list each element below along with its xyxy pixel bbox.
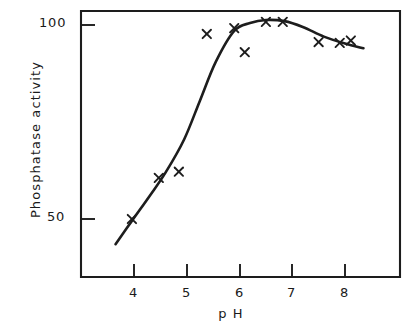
x-tick-label-5: 5 <box>182 285 191 300</box>
data-point-marker <box>203 30 211 38</box>
figure-container: 100 50 4 5 6 7 8 Phosphatase activity p … <box>0 0 408 334</box>
data-point-marker <box>175 167 183 175</box>
axis-frame-path <box>81 11 400 277</box>
y-tick-label-50: 50 <box>47 209 65 224</box>
data-point-marker <box>347 36 355 44</box>
x-tick-label-4: 4 <box>129 285 138 300</box>
y-axis-ticks <box>81 25 95 219</box>
x-axis-ticks <box>134 264 345 277</box>
plot-frame <box>81 11 400 277</box>
data-point-marker <box>241 48 249 56</box>
y-axis-title: Phosphatase activity <box>28 25 43 255</box>
x-tick-label-6: 6 <box>235 285 244 300</box>
fitted-curve <box>116 20 364 244</box>
data-point-marker <box>314 38 322 46</box>
x-axis-title: p H <box>186 306 276 321</box>
x-tick-label-8: 8 <box>340 285 349 300</box>
y-tick-label-100: 100 <box>39 15 66 30</box>
phosphatase-activity-vs-ph-chart <box>0 0 408 334</box>
x-tick-label-7: 7 <box>287 285 296 300</box>
data-point-markers <box>128 18 355 224</box>
